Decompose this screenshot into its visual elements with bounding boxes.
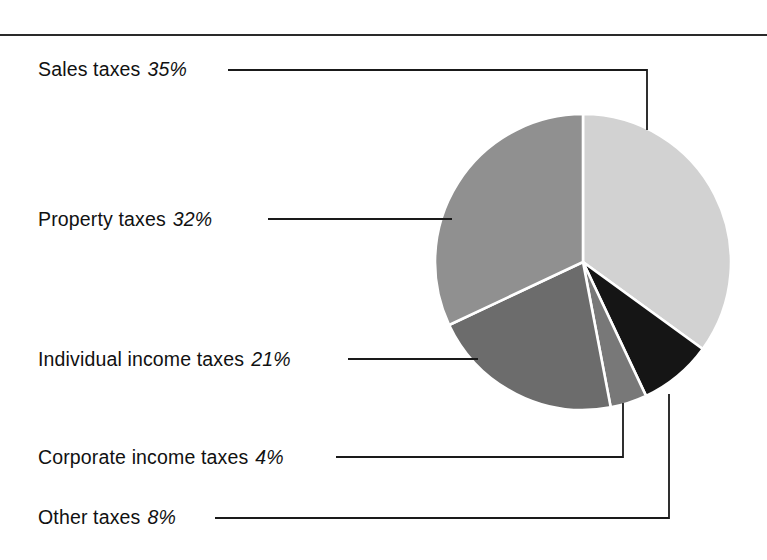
callout-corporate-label: Corporate income taxes — [38, 446, 248, 468]
callout-property-percent: 32% — [173, 208, 212, 230]
pie-slice-group — [435, 114, 731, 410]
callout-sales-percent: 35% — [147, 58, 186, 80]
callout-sales-label: Sales taxes — [38, 58, 140, 80]
callout-individual-label: Individual income taxes — [38, 348, 244, 370]
callout-individual-percent: 21% — [251, 348, 290, 370]
callout-corporate-income-taxes: Corporate income taxes4% — [38, 448, 284, 468]
callout-other-taxes: Other taxes8% — [38, 508, 176, 528]
callout-individual-income-taxes: Individual income taxes21% — [38, 350, 291, 370]
pie-chart-figure: Sales taxes35% Property taxes32% Individ… — [0, 0, 767, 560]
callout-property-taxes: Property taxes32% — [38, 210, 212, 230]
callout-other-percent: 8% — [147, 506, 175, 528]
pie-chart-svg — [0, 0, 767, 560]
callout-sales-taxes: Sales taxes35% — [38, 60, 187, 80]
callout-other-label: Other taxes — [38, 506, 140, 528]
callout-property-label: Property taxes — [38, 208, 166, 230]
callout-corporate-percent: 4% — [255, 446, 283, 468]
